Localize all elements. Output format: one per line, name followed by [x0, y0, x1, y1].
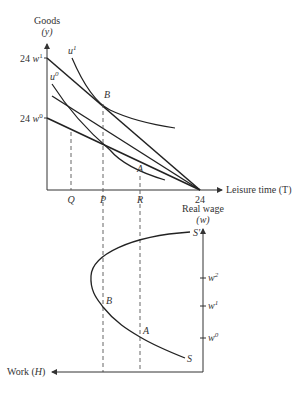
S-prime-label: S'	[193, 227, 201, 238]
compensated-budget-line	[52, 96, 200, 190]
svg-text:w2: w2	[208, 271, 219, 283]
svg-text:w1: w1	[208, 299, 218, 311]
work-axis-label: Work (H)	[7, 366, 45, 378]
point-B-top: B	[104, 89, 110, 100]
point-A-bottom: A	[142, 325, 150, 336]
budget-line-w0	[47, 118, 200, 190]
wage-axis-label: Real wage	[182, 203, 224, 214]
point-A-top: A	[136, 163, 144, 174]
top-panel: Goods (y) Leisure time (T) 24 24 w1 24 w…	[20, 15, 292, 372]
bottom-panel: Real wage (w) Work (H) w2 w1 w0 S' S B A	[7, 203, 225, 378]
svg-text:24 w1: 24 w1	[20, 52, 43, 64]
u1-label: u1	[68, 44, 77, 56]
tick-P: P	[99, 194, 106, 205]
svg-text:24 w0: 24 w0	[20, 112, 43, 124]
goods-axis-symbol: (y)	[41, 26, 53, 38]
intercept-24w0: 24 w0	[20, 112, 47, 124]
u0-label: u0	[50, 70, 59, 82]
tick-Q: Q	[67, 194, 75, 205]
wage-axis-symbol: (w)	[196, 214, 210, 226]
S-label: S	[187, 353, 192, 364]
goods-axis-label: Goods	[34, 15, 60, 26]
labor-supply-diagram: Goods (y) Leisure time (T) 24 24 w1 24 w…	[0, 0, 303, 393]
leisure-axis-label: Leisure time (T)	[226, 184, 292, 196]
svg-text:w0: w0	[208, 331, 219, 343]
budget-line-w1	[47, 58, 200, 190]
intercept-24w1: 24 w1	[20, 52, 47, 64]
tick-R: R	[136, 194, 143, 205]
point-B-bottom: B	[106, 295, 112, 306]
